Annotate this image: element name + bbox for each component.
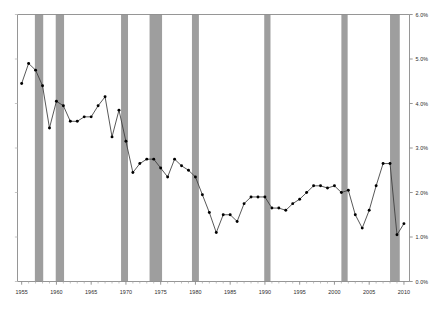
x-axis-tick-label: 1985: [224, 289, 236, 295]
data-point: [131, 171, 134, 174]
data-point: [76, 120, 79, 123]
recession-band: [35, 15, 43, 282]
data-point: [263, 196, 266, 199]
data-point: [27, 62, 30, 65]
x-axis-tick-label: 1970: [120, 289, 132, 295]
data-point: [187, 169, 190, 172]
data-point: [396, 233, 399, 236]
x-axis-tick-label: 1975: [154, 289, 166, 295]
data-point: [62, 104, 65, 107]
data-point: [250, 196, 253, 199]
chart-container: 1955196019651970197519801985199019952000…: [0, 0, 439, 312]
data-point: [201, 193, 204, 196]
data-point: [69, 120, 72, 123]
data-point: [83, 115, 86, 118]
y-axis-tick-label: 6.0%: [416, 12, 429, 18]
data-point: [389, 162, 392, 165]
data-point: [270, 207, 273, 210]
recession-band: [56, 15, 64, 282]
recession-band: [341, 15, 347, 282]
data-point: [124, 140, 127, 143]
data-point: [104, 95, 107, 98]
data-point: [257, 196, 260, 199]
data-point: [34, 69, 37, 72]
data-point: [138, 162, 141, 165]
y-axis-tick-label: 5.0%: [416, 56, 429, 62]
data-point: [291, 202, 294, 205]
data-point: [222, 213, 225, 216]
data-point: [298, 198, 301, 201]
x-axis-tick-label: 1980: [189, 289, 201, 295]
data-point: [41, 84, 44, 87]
y-axis-tick-label: 2.0%: [416, 190, 429, 196]
data-point: [340, 191, 343, 194]
x-axis-tick-label: 1955: [15, 289, 27, 295]
data-point: [194, 175, 197, 178]
data-point: [277, 207, 280, 210]
data-point: [215, 231, 218, 234]
data-point: [152, 158, 155, 161]
data-point: [145, 158, 148, 161]
x-axis-tick-label: 1960: [50, 289, 62, 295]
y-axis-tick-label: 1.0%: [416, 234, 429, 240]
data-point: [90, 115, 93, 118]
data-point: [361, 227, 364, 230]
data-point: [305, 191, 308, 194]
x-axis-tick-label: 1990: [259, 289, 271, 295]
data-point: [243, 202, 246, 205]
recession-band: [264, 15, 270, 282]
data-point: [229, 213, 232, 216]
y-axis-tick-label: 0.0%: [416, 279, 429, 285]
data-point: [402, 222, 405, 225]
recession-band: [390, 15, 400, 282]
data-point: [319, 184, 322, 187]
data-point: [111, 135, 114, 138]
data-point: [312, 184, 315, 187]
data-point: [284, 209, 287, 212]
data-point: [173, 158, 176, 161]
data-point: [236, 220, 239, 223]
data-point: [97, 104, 100, 107]
data-point: [55, 100, 58, 103]
data-point: [347, 189, 350, 192]
data-point: [20, 82, 23, 85]
y-axis-tick-label: 4.0%: [416, 101, 429, 107]
data-point: [333, 184, 336, 187]
data-point: [326, 187, 329, 190]
x-axis-tick-label: 1965: [85, 289, 97, 295]
x-axis-tick-label: 2000: [328, 289, 340, 295]
data-point: [208, 211, 211, 214]
recession-band: [150, 15, 163, 282]
y-axis-tick-label: 3.0%: [416, 145, 429, 151]
data-point: [382, 162, 385, 165]
line-chart-plot: [0, 0, 439, 312]
data-point: [159, 167, 162, 170]
x-axis-tick-label: 2010: [398, 289, 410, 295]
recession-band: [192, 15, 199, 282]
data-point: [368, 209, 371, 212]
data-point: [180, 164, 183, 167]
data-point: [48, 127, 51, 130]
data-point: [375, 184, 378, 187]
x-axis-tick-label: 1995: [293, 289, 305, 295]
recession-band: [121, 15, 128, 282]
data-point: [354, 213, 357, 216]
data-point: [166, 175, 169, 178]
data-point: [118, 109, 121, 112]
x-axis-tick-label: 2005: [363, 289, 375, 295]
